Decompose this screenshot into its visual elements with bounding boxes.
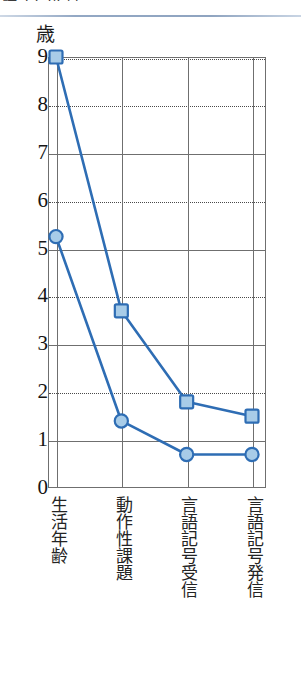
clipped-heading-text: 語 12 か 月。	[2, 0, 97, 1]
y-tick-label-6: 6	[24, 190, 48, 211]
data-point-0-1	[115, 304, 128, 317]
series-line-1	[56, 237, 252, 455]
page-top-artifacts: 語 12 か 月。	[0, 0, 301, 22]
data-point-0-3	[246, 410, 259, 423]
y-tick-label-0: 0	[24, 477, 48, 498]
x-axis-label-1: 動作性課題	[110, 496, 132, 581]
series-line-0	[56, 57, 252, 416]
y-tick-label-8: 8	[24, 94, 48, 115]
header-rule	[0, 15, 301, 17]
y-tick-label-2: 2	[24, 381, 48, 402]
data-series-layer	[48, 57, 266, 488]
x-axis-label-3: 言語記号発信	[241, 496, 263, 598]
data-point-1-3	[245, 448, 258, 461]
y-tick-label-7: 7	[24, 142, 48, 163]
y-tick-label-3: 3	[24, 333, 48, 354]
data-point-1-1	[115, 414, 128, 427]
data-point-0-0	[50, 51, 63, 64]
y-tick-label-5: 5	[24, 238, 48, 259]
data-point-1-0	[49, 230, 62, 243]
line-chart: 歳 0123456789 生活年齢動作性課題言語記号受信言語記号発信	[0, 22, 301, 677]
data-point-0-2	[180, 395, 193, 408]
y-axis-unit-label: 歳	[36, 24, 55, 44]
y-tick-label-1: 1	[24, 429, 48, 450]
x-axis-label-0: 生活年齢	[45, 496, 67, 564]
data-point-1-2	[180, 448, 193, 461]
y-tick-label-4: 4	[24, 285, 48, 306]
y-tick-label-9: 9	[24, 46, 48, 67]
x-axis-label-2: 言語記号受信	[176, 496, 198, 598]
